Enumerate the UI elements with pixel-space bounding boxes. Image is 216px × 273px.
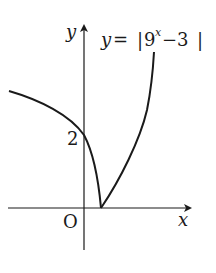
x-axis-label: x: [178, 209, 188, 230]
equation-equals: =: [113, 29, 128, 50]
equation-rest: −3: [162, 29, 189, 50]
y-intercept-label: 2: [67, 128, 78, 149]
curve-right-branch: [101, 52, 154, 208]
equation-abs-left: |: [137, 29, 143, 51]
equation-exponent: x: [155, 26, 162, 39]
equation-abs-right: |: [197, 29, 203, 51]
equation-base: 9: [144, 29, 155, 50]
curve-left-branch: [9, 91, 101, 208]
equation-lhs: y: [100, 29, 112, 50]
origin-label: O: [63, 211, 78, 232]
equation-label: y = | 9 x −3 |: [100, 26, 203, 51]
graph-canvas: y x O 2 y = | 9 x −3 |: [0, 0, 216, 273]
y-axis-label: y: [65, 21, 77, 42]
